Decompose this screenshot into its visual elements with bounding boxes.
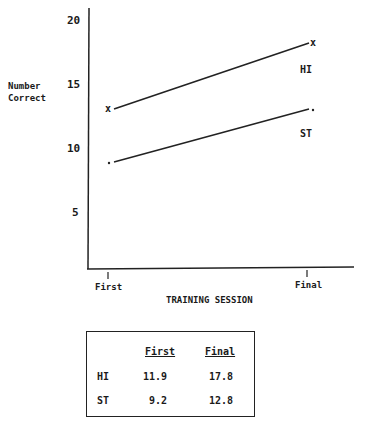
y-tick-15: 15 — [67, 78, 80, 91]
y-axis-label-line1: Number — [8, 80, 46, 92]
table-row-label-st: ST — [97, 395, 109, 406]
marker-x-hi-final: x — [310, 37, 316, 48]
marker-x-hi-first: x — [105, 103, 111, 114]
table-row-label-hi: HI — [97, 371, 109, 382]
series-line-st — [114, 109, 309, 162]
y-tick-5: 5 — [72, 206, 79, 219]
x-tick-label-first: First — [95, 282, 122, 292]
x-axis-label: TRAINING SESSION — [166, 295, 253, 305]
data-table: First Final HI 11.9 17.8 ST 9.2 12.8 — [86, 331, 255, 417]
marker-dot-st-first — [108, 162, 110, 164]
table-header-first: First — [145, 346, 175, 357]
series-line-hi — [114, 43, 309, 109]
table-cell-st-final: 12.8 — [209, 395, 233, 406]
x-tick-label-final: Final — [295, 280, 322, 290]
table-cell-st-first: 9.2 — [149, 395, 167, 406]
y-tick-10: 10 — [67, 142, 80, 155]
y-axis-label-line2: Correct — [8, 92, 46, 104]
series-label-st: ST — [300, 128, 312, 139]
table-header-final: Final — [205, 346, 235, 357]
table-cell-hi-final: 17.8 — [209, 371, 233, 382]
y-axis — [88, 8, 89, 269]
marker-dot-st-final — [312, 109, 314, 111]
y-axis-label: Number Correct — [8, 80, 46, 104]
series-label-hi: HI — [300, 64, 312, 75]
y-tick-20: 20 — [67, 14, 80, 27]
table-cell-hi-first: 11.9 — [143, 371, 167, 382]
x-axis — [87, 267, 354, 269]
